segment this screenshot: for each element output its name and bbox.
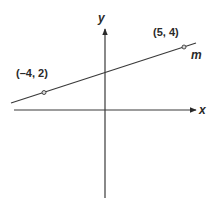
point-5-4 — [182, 45, 186, 49]
point-neg4-2-label: (–4, 2) — [16, 67, 48, 79]
coordinate-plane: x y m (–4, 2) (5, 4) — [0, 0, 215, 200]
x-axis-label: x — [198, 103, 207, 117]
line-m-label: m — [191, 48, 202, 62]
point-5-4-label: (5, 4) — [153, 26, 179, 38]
point-neg4-2 — [42, 91, 46, 95]
y-axis-label: y — [97, 11, 106, 25]
